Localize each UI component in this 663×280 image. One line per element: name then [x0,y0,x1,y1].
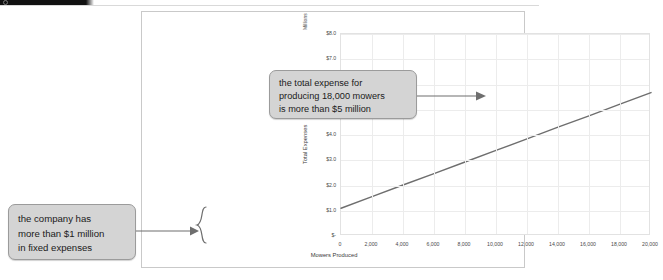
y-axis-tick-label: $8.0 [310,30,336,36]
x-axis-tick-label: 16,000 [573,241,603,247]
gridline-horizontal [341,160,649,161]
plot-area [340,33,650,235]
gridline-vertical [589,34,590,234]
callout-line: producing 18,000 mowers [279,90,407,103]
y-axis-tick-label: $1.0 [310,207,336,213]
gridline-vertical [403,34,404,234]
x-axis-tick-label: 8,000 [449,241,479,247]
gridline-horizontal [341,34,649,35]
y-axis-title: Total Expenses [302,125,308,164]
y-axis-tick-label: $- [310,232,336,238]
callout-line: in fixed expenses [18,241,126,256]
gridline-vertical [558,34,559,234]
y-axis-tick-label: $4.0 [310,131,336,137]
y-axis-tick-label: $2.0 [310,182,336,188]
callout-line: is more than $5 million [279,103,407,116]
callout-line: more than $1 million [18,227,126,242]
callout-line: the total expense for [279,77,407,90]
x-axis-tick-label: 4,000 [387,241,417,247]
total-expense-callout: the total expense for producing 18,000 m… [269,70,417,119]
callout-line: the company has [18,212,126,227]
gridline-vertical [465,34,466,234]
x-axis-tick-label: 12,000 [511,241,541,247]
fixed-expenses-callout: the company has more than $1 million in … [8,204,136,260]
gridline-horizontal [341,186,649,187]
gridline-vertical [372,34,373,234]
header-divider [0,5,539,6]
x-axis-tick-label: 6,000 [418,241,448,247]
y-axis-tick-label: $7.0 [310,55,336,61]
y-axis-tick-label: $3.0 [310,156,336,162]
gridline-horizontal [341,135,649,136]
gridline-horizontal [341,59,649,60]
x-axis-tick-label: 18,000 [604,241,634,247]
x-axis-tick-label: 20,000 [635,241,663,247]
x-axis-title: Mowers Produced [142,252,526,258]
x-axis-tick-label: 2,000 [356,241,386,247]
x-axis-tick-label: 14,000 [542,241,572,247]
gridline-vertical [527,34,528,234]
y-axis-unit-label: Millions [302,13,308,30]
x-axis-tick-label: 0 [325,241,355,247]
gridline-vertical [434,34,435,234]
gridline-horizontal [341,211,649,212]
fixed-expenses-arrow-icon [134,223,200,239]
gridline-vertical [496,34,497,234]
x-axis-tick-label: 10,000 [480,241,510,247]
total-expense-arrow-icon [415,88,487,104]
gridline-vertical [620,34,621,234]
